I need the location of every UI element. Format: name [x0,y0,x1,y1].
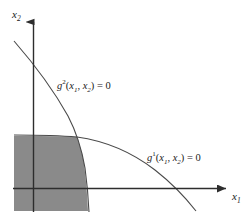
plot-canvas [0,0,252,215]
x-axis-label: x1 [232,191,241,205]
feasible-region-figure: x2 x1 g2(x1, x2) = 0 g1(x1, x2) = 0 [0,0,252,215]
curve-label-g2: g2(x1, x2) = 0 [57,79,111,94]
feasible-region-shape [14,136,88,211]
curve-label-g1: g1(x1, x2) = 0 [147,151,201,166]
y-axis-label: x2 [12,9,21,23]
